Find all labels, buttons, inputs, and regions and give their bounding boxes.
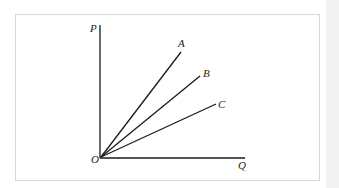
ray-c xyxy=(101,104,216,157)
q-axis-label: Q xyxy=(238,159,246,171)
ray-b xyxy=(101,76,200,157)
ray-c-label: C xyxy=(218,98,226,110)
diagram-canvas: P Q O A B C xyxy=(0,0,339,188)
ray-a xyxy=(101,52,181,157)
ray-a-label: A xyxy=(177,37,185,49)
ray-b-label: B xyxy=(203,67,210,79)
origin-label: O xyxy=(91,153,99,165)
p-axis-label: P xyxy=(89,22,97,34)
